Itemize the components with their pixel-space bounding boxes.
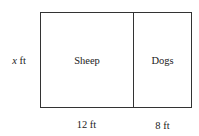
height-variable: x bbox=[12, 55, 17, 66]
sheep-region: Sheep bbox=[41, 13, 134, 107]
diagram-canvas: x ft Sheep Dogs 12 ft 8 ft bbox=[0, 0, 199, 136]
dogs-region-label: Dogs bbox=[151, 55, 173, 66]
height-label: x ft bbox=[6, 56, 32, 67]
sheep-width-label: 12 ft bbox=[40, 120, 133, 131]
height-unit: ft bbox=[19, 55, 25, 66]
sheep-region-label: Sheep bbox=[74, 55, 100, 66]
dogs-width-label: 8 ft bbox=[133, 121, 192, 132]
pen-rectangle: Sheep Dogs bbox=[40, 12, 192, 108]
dogs-region: Dogs bbox=[134, 13, 191, 107]
